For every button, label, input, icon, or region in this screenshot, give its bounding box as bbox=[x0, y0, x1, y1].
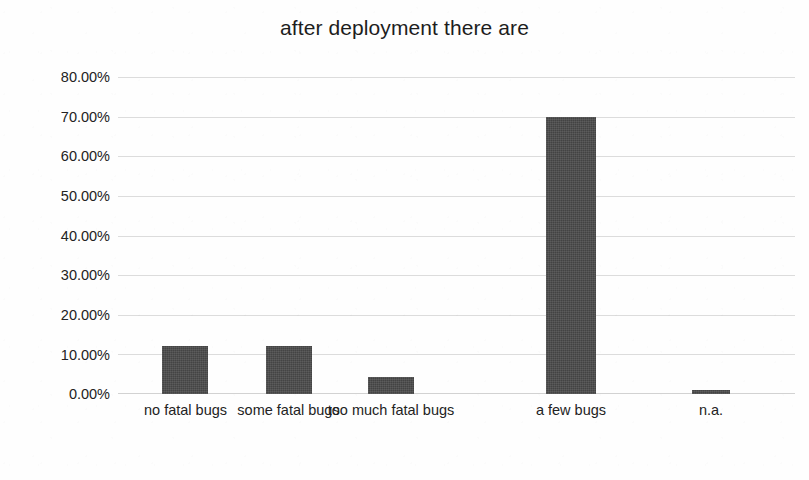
bar-a-few-bugs bbox=[546, 117, 596, 394]
gridline-40 bbox=[118, 236, 795, 237]
bar-no-fatal-bugs bbox=[162, 346, 208, 394]
gridline-10 bbox=[118, 354, 795, 355]
gridline-60 bbox=[118, 156, 795, 157]
bar-chart: after deployment there are 80.00% 70.00%… bbox=[0, 0, 809, 480]
y-axis-tick-label: 70.00% bbox=[22, 109, 110, 125]
y-axis-tick-label: 80.00% bbox=[22, 69, 110, 85]
gridline-20 bbox=[118, 315, 795, 316]
x-axis: no fatal bugs some fatal bugs too much f… bbox=[118, 399, 795, 469]
gridline-80 bbox=[118, 77, 795, 78]
gridline-70 bbox=[118, 117, 795, 118]
plot-area bbox=[118, 77, 795, 394]
y-axis-tick-label: 60.00% bbox=[22, 148, 110, 164]
bar-na bbox=[692, 390, 730, 394]
y-axis-tick-label: 20.00% bbox=[22, 307, 110, 323]
y-axis-tick-label: 50.00% bbox=[22, 188, 110, 204]
x-axis-tick-label: too much fatal bugs bbox=[321, 399, 461, 421]
x-axis-tick-label: n.a. bbox=[646, 399, 776, 421]
gridline-50 bbox=[118, 196, 795, 197]
y-axis-tick-label: 30.00% bbox=[22, 267, 110, 283]
x-axis-tick-label: a few bugs bbox=[501, 399, 641, 421]
y-axis-tick-label: 0.00% bbox=[22, 386, 110, 402]
y-axis-tick-label: 10.00% bbox=[22, 347, 110, 363]
bar-too-much-fatal-bugs bbox=[368, 377, 414, 394]
gridline-30 bbox=[118, 275, 795, 276]
bar-some-fatal-bugs bbox=[266, 346, 312, 394]
y-axis-tick-label: 40.00% bbox=[22, 228, 110, 244]
